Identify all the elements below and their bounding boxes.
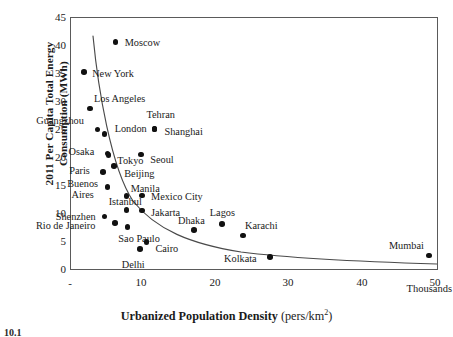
data-point bbox=[112, 220, 118, 226]
data-point-label: Seoul bbox=[150, 154, 173, 165]
data-point-label: Moscow bbox=[125, 37, 160, 48]
x-tick-20: 20 bbox=[193, 277, 237, 288]
data-point-label: Beijing bbox=[124, 168, 154, 179]
data-point bbox=[426, 253, 432, 259]
data-point bbox=[219, 221, 225, 227]
x-tick-10: 10 bbox=[119, 277, 163, 288]
data-point bbox=[267, 254, 273, 260]
data-point-label: Delhi bbox=[122, 259, 145, 270]
trendline-layer bbox=[71, 18, 437, 269]
figure-scatter-energy-vs-density: 2011 Per Capita Total Energy Consumption… bbox=[0, 0, 453, 337]
data-point-label: Los Angeles bbox=[94, 93, 145, 104]
data-point bbox=[100, 169, 106, 175]
data-point-label: Guangzhou bbox=[36, 115, 83, 126]
y-tick-0: 0 bbox=[36, 264, 66, 275]
data-point-label: Mumbai bbox=[389, 240, 424, 251]
data-point bbox=[81, 69, 87, 75]
data-point bbox=[125, 224, 131, 230]
figure-caption-partial: 10.1 bbox=[4, 327, 22, 337]
data-point bbox=[191, 227, 197, 233]
y-tick-40: 40 bbox=[36, 40, 66, 51]
plot-area: MoscowNew YorkLos AngelesGuangzhouTehran… bbox=[70, 17, 438, 270]
data-point bbox=[240, 233, 246, 239]
data-point-label: Tehran bbox=[146, 109, 174, 120]
data-point-label: Lagos bbox=[210, 207, 235, 218]
data-point-label: Mexico City bbox=[151, 191, 203, 202]
data-point-label: Cairo bbox=[155, 243, 178, 254]
x-tick-30: 30 bbox=[266, 277, 310, 288]
data-point bbox=[111, 163, 117, 169]
x-axis-title-units-close: ) bbox=[328, 309, 332, 323]
y-tick-5: 5 bbox=[36, 236, 66, 247]
data-point-label: Jakarta bbox=[151, 207, 180, 218]
y-tick-45: 45 bbox=[36, 12, 66, 23]
data-point-label: New York bbox=[92, 68, 134, 79]
data-point bbox=[144, 239, 150, 245]
data-point-label: Istanbul bbox=[109, 196, 142, 207]
data-point bbox=[152, 126, 158, 132]
data-point-label: Paris bbox=[69, 165, 90, 176]
data-point bbox=[137, 246, 143, 252]
x-axis-title: Urbanized Population Density (pers/km2) bbox=[0, 308, 453, 324]
y-tick-35: 35 bbox=[36, 68, 66, 79]
data-point-label: Kolkata bbox=[224, 253, 257, 264]
data-point bbox=[124, 207, 130, 213]
data-point-label: Sao Paulo bbox=[118, 233, 159, 244]
data-point bbox=[87, 106, 93, 112]
x-tick-0: - bbox=[48, 278, 92, 289]
data-point bbox=[139, 208, 145, 214]
y-tick-30: 30 bbox=[36, 96, 66, 107]
data-point-label: Dhaka bbox=[178, 215, 205, 226]
x-tick-40: 40 bbox=[340, 277, 384, 288]
data-point-label: Karachi bbox=[245, 220, 278, 231]
data-point-label: London bbox=[115, 123, 147, 134]
data-point-label: Buenos Aires bbox=[62, 178, 104, 200]
data-point-label: Osaka bbox=[69, 146, 95, 157]
x-axis-title-bold: Urbanized Population Density bbox=[121, 309, 278, 323]
data-point bbox=[106, 152, 112, 158]
data-point-label: Rio de Janeiro bbox=[36, 220, 95, 231]
x-axis-scale-note: Thousands bbox=[407, 283, 453, 294]
data-point-label: Shanghai bbox=[164, 126, 202, 137]
y-tick-20: 20 bbox=[36, 152, 66, 163]
x-axis-title-units-open: (pers/km bbox=[278, 309, 324, 323]
